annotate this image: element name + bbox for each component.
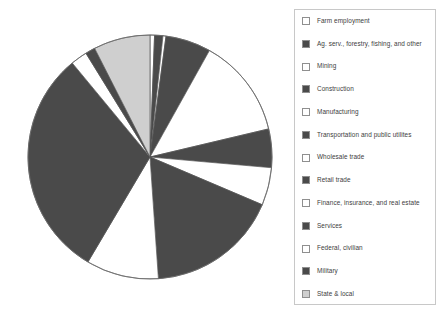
- legend-item-label: Transportation and public utilites: [317, 132, 412, 138]
- legend-item-label: Construction: [317, 86, 354, 92]
- legend-swatch-icon: [302, 85, 310, 93]
- legend-item-label: State & local: [317, 291, 354, 297]
- legend-item[interactable]: Wholesale trade: [302, 154, 429, 162]
- legend-swatch-icon: [302, 176, 310, 184]
- pie-chart-figure: Farm employmentAg. serv., forestry, fish…: [0, 0, 444, 313]
- legend-swatch-icon: [302, 108, 310, 116]
- legend-item[interactable]: Manufacturing: [302, 108, 429, 116]
- legend-item-label: Mining: [317, 63, 336, 69]
- legend-item[interactable]: Services: [302, 222, 429, 230]
- legend-item-label: Wholesale trade: [317, 154, 364, 160]
- legend-item[interactable]: Transportation and public utilites: [302, 131, 429, 139]
- legend-swatch-icon: [302, 40, 310, 48]
- pie-slice-group: [28, 35, 272, 279]
- legend-item-label: Retail trade: [317, 177, 351, 183]
- legend-swatch-icon: [302, 245, 310, 253]
- legend-swatch-icon: [302, 222, 310, 230]
- legend-item-label: Finance, insurance, and real estate: [317, 200, 420, 206]
- legend-item[interactable]: Ag. serv., forestry, fishing, and other: [302, 40, 429, 48]
- legend-item[interactable]: Mining: [302, 63, 429, 71]
- legend-swatch-icon: [302, 131, 310, 139]
- legend-item[interactable]: State & local: [302, 290, 429, 298]
- legend-item-label: Ag. serv., forestry, fishing, and other: [317, 41, 422, 47]
- legend-swatch-icon: [302, 199, 310, 207]
- legend-swatch-icon: [302, 154, 310, 162]
- legend-item[interactable]: Retail trade: [302, 176, 429, 184]
- legend-swatch-icon: [302, 63, 310, 71]
- legend-item-label: Services: [317, 223, 342, 229]
- legend-item[interactable]: Farm employment: [302, 17, 429, 25]
- pie-chart-svg: [0, 0, 290, 313]
- legend-swatch-icon: [302, 290, 310, 298]
- legend-item[interactable]: Construction: [302, 85, 429, 93]
- legend-swatch-icon: [302, 17, 310, 25]
- legend-item-list: Farm employmentAg. serv., forestry, fish…: [302, 17, 429, 298]
- legend-item-label: Manufacturing: [317, 109, 359, 115]
- legend-item-label: Farm employment: [317, 18, 370, 24]
- legend-item-label: Military: [317, 268, 338, 274]
- legend-item[interactable]: Military: [302, 267, 429, 275]
- legend-item[interactable]: Federal, civilian: [302, 245, 429, 253]
- legend-item-label: Federal, civilian: [317, 245, 363, 251]
- legend-swatch-icon: [302, 267, 310, 275]
- legend-item[interactable]: Finance, insurance, and real estate: [302, 199, 429, 207]
- legend-box: Farm employmentAg. serv., forestry, fish…: [294, 9, 436, 305]
- pie-plot-area: [0, 0, 290, 313]
